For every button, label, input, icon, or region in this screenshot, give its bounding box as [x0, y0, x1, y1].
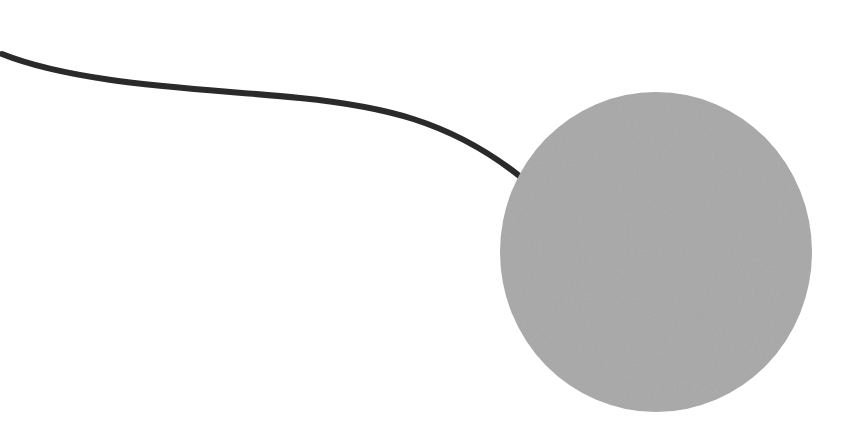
balloon-illustration	[0, 0, 860, 435]
balloon-string	[2, 54, 522, 178]
gray-circle	[500, 92, 812, 412]
canvas	[0, 0, 860, 435]
